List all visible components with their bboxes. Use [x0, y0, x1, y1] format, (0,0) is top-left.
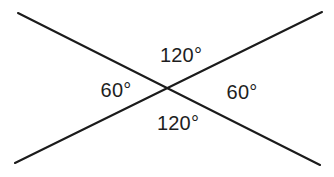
angle-label-left: 60°	[101, 80, 132, 100]
vertical-angles-diagram: 120° 60° 60° 120°	[0, 0, 334, 177]
angle-lines-canvas	[0, 0, 334, 177]
angle-label-right: 60°	[227, 82, 258, 102]
angle-label-bottom: 120°	[157, 113, 199, 133]
angle-label-top: 120°	[160, 45, 202, 65]
